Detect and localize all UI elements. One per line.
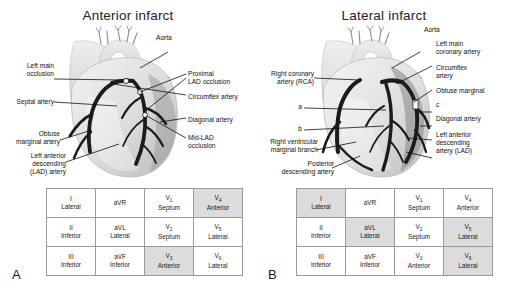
ecg-grid-body: ILateralaVRV1SeptumV4AnteriorIIInferiora… [297, 189, 493, 276]
ecg-lead-grid-anterior: ILateralaVRV1SeptumV4AnteriorIIInferiora… [46, 188, 243, 276]
ecg-lead-cell: V2Septum [395, 218, 444, 247]
ecg-lead-region: Lateral [47, 203, 95, 211]
ecg-lead-region: Inferior [346, 261, 394, 269]
label-right-coronary-artery-rca: Right coronary artery (RCA) [256, 70, 314, 86]
label-proximal-lad-occlusion: Proximal LAD occlusion [188, 70, 230, 86]
ecg-lead-subscript: 2 [420, 227, 423, 232]
label-right-ventricular-marginal-branch: Right ventricular marginal branch [256, 138, 318, 154]
ecg-lead-name: V3 [145, 252, 193, 261]
label-obtuse-marginal: Obtuse marginal [436, 87, 484, 95]
ecg-lead-name: V6 [194, 252, 242, 261]
ecg-lead-region: Inferior [297, 261, 345, 269]
ecg-lead-name: aVR [346, 199, 394, 207]
ecg-lead-name: V2 [145, 223, 193, 232]
panel-lateral-infarct: Lateral infarct [256, 0, 512, 295]
ecg-lead-region: Lateral [444, 262, 492, 270]
ecg-grid-body: ILateralaVRV1SeptumV4AnteriorIIInferiora… [47, 189, 243, 276]
label-diagonal-artery: Diagonal artery [188, 116, 233, 124]
ecg-grid-row: IIInferioraVLLateralV2SeptumV5Lateral [297, 218, 493, 247]
ecg-lead-name: V5 [444, 223, 492, 232]
ecg-lead-cell: ILateral [47, 189, 96, 218]
mid-lad-occlusion-marker [143, 113, 148, 118]
ecg-lead-region: Inferior [96, 261, 144, 269]
label-left-main-occlusion: Left main occlusion [6, 62, 54, 78]
ecg-lead-cell: V5Lateral [194, 218, 243, 247]
panel-letter: A [12, 267, 21, 282]
ecg-lead-name: V6 [444, 252, 492, 261]
ecg-lead-cell: V2Septum [145, 218, 194, 247]
ecg-lead-cell: IIIInferior [297, 247, 346, 276]
panel-anterior-infarct: Anterior infarct [0, 0, 256, 295]
label-left-anterior-descending-lad-artery: Left anterior descending (LAD) artery [6, 152, 66, 177]
ecg-lead-cell: V1Septum [145, 189, 194, 218]
label-obtuse-marginal-artery: Obtuse marginal artery [4, 130, 60, 146]
ecg-lead-region: Lateral [194, 262, 242, 270]
ecg-lead-cell: IIInferior [47, 218, 96, 247]
ecg-lead-cell: V1Septum [395, 189, 444, 218]
ecg-lead-name: V5 [194, 223, 242, 232]
ecg-lead-cell: aVLLateral [346, 218, 395, 247]
ecg-lead-name: I [297, 195, 345, 203]
ecg-lead-region: Lateral [444, 233, 492, 241]
label-posterior-descending-artery: Posterior descending artery [266, 160, 334, 176]
ecg-lead-cell: aVR [346, 189, 395, 218]
ecg-lead-subscript: 1 [170, 198, 173, 203]
ecg-lead-region: Lateral [297, 203, 345, 211]
label-aorta: Aorta [156, 34, 172, 42]
label-aorta: Aorta [424, 26, 440, 34]
ecg-lead-region: Septum [395, 204, 443, 212]
ecg-grid-row: IIIInferioraVFInferiorV3AnteriorV6Latera… [297, 247, 493, 276]
ecg-lead-name: V1 [395, 194, 443, 203]
label-septal-artery: Septal artery [0, 98, 54, 106]
ecg-lead-name: aVR [96, 199, 144, 207]
ecg-lead-subscript: 6 [219, 256, 222, 261]
label-left-anterior-descending-artery-lad: Left anterior descending artery (LAD) [436, 131, 472, 156]
ecg-lead-cell: V3Anterior [145, 247, 194, 276]
ecg-lead-subscript: 4 [219, 198, 222, 203]
ecg-lead-subscript: 1 [420, 198, 423, 203]
ecg-lead-name: V4 [194, 194, 242, 203]
ecg-lead-region: Anterior [395, 262, 443, 270]
ecg-lead-name: II [297, 224, 345, 232]
ecg-grid-row: IIIInferioraVFInferiorV3AnteriorV6Latera… [47, 247, 243, 276]
panel-title: Anterior infarct [0, 8, 256, 23]
ecg-grid-row: IIInferioraVLLateralV2SeptumV5Lateral [47, 218, 243, 247]
ecg-lead-cell: V6Lateral [194, 247, 243, 276]
ecg-lead-subscript: 3 [420, 256, 423, 261]
ecg-lead-cell: ILateral [297, 189, 346, 218]
panel-title: Lateral infarct [256, 8, 512, 23]
ecg-lead-region: Anterior [444, 204, 492, 212]
ecg-lead-subscript: 3 [170, 256, 173, 261]
ecg-lead-cell: aVFInferior [96, 247, 145, 276]
ecg-lead-subscript: 5 [469, 227, 472, 232]
ecg-lead-subscript: 4 [469, 198, 472, 203]
ecg-lead-cell: IIIInferior [47, 247, 96, 276]
label-marker-c: c [436, 101, 439, 109]
ecg-lead-region: Lateral [346, 232, 394, 240]
figure-two-panel-infarct: Anterior infarct [0, 0, 512, 295]
panel-letter: B [268, 267, 277, 282]
ecg-lead-cell: V4Anterior [194, 189, 243, 218]
ecg-lead-region: Septum [395, 233, 443, 241]
ecg-lead-region: Lateral [96, 232, 144, 240]
ecg-lead-name: I [47, 195, 95, 203]
ecg-lead-subscript: 5 [219, 227, 222, 232]
label-marker-a: a [282, 103, 302, 111]
ecg-lead-name: III [47, 253, 95, 261]
ecg-lead-region: Inferior [297, 232, 345, 240]
ecg-lead-region: Anterior [145, 262, 193, 270]
ecg-lead-cell: aVR [96, 189, 145, 218]
ecg-grid-row: ILateralaVRV1SeptumV4Anterior [297, 189, 493, 218]
ecg-lead-name: V2 [395, 223, 443, 232]
left-main-occlusion-marker [123, 78, 128, 83]
ecg-lead-region: Inferior [47, 232, 95, 240]
ecg-lead-name: V4 [444, 194, 492, 203]
ecg-lead-cell: IIInferior [297, 218, 346, 247]
label-left-main-coronary-artery: Left main coronary artery [436, 40, 480, 56]
ecg-lead-name: V3 [395, 252, 443, 261]
ecg-lead-cell: V4Anterior [444, 189, 493, 218]
ecg-lead-subscript: 2 [170, 227, 173, 232]
ecg-lead-name: III [297, 253, 345, 261]
ecg-lead-name: II [47, 224, 95, 232]
label-diagonal-artery: Diagonal artery [436, 115, 481, 123]
